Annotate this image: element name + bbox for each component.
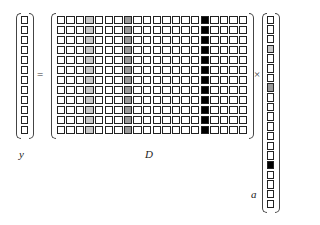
matrix-d-cell: [114, 126, 122, 135]
matrix-d-cell: [201, 46, 209, 55]
matrix-d-cell: [133, 66, 141, 75]
matrix-d-cell: [114, 86, 122, 95]
matrix-d-cell: [76, 66, 84, 75]
matrix-d-cell: [239, 126, 247, 135]
matrix-d-cell: [105, 26, 113, 35]
matrix-d-cell: [143, 106, 151, 115]
matrix-d-cell: [105, 116, 113, 125]
matrix-d-cell: [229, 36, 237, 45]
vector-a-cell: [267, 161, 275, 170]
matrix-d-cell: [76, 46, 84, 55]
matrix-d-cell: [124, 26, 132, 35]
matrix-d-cell: [105, 66, 113, 75]
matrix-d-cell: [143, 36, 151, 45]
matrix-d-cell: [133, 46, 141, 55]
matrix-d-cell: [229, 86, 237, 95]
matrix-d-cell: [85, 36, 93, 45]
matrix-d-cell: [95, 76, 103, 85]
matrix-d-cell: [210, 126, 218, 135]
times-sign: ×: [254, 68, 260, 80]
matrix-d-cell: [85, 26, 93, 35]
matrix-d-cell: [133, 76, 141, 85]
matrix-d-cell: [57, 56, 65, 65]
matrix-d-cell: [153, 116, 161, 125]
matrix-d-cell: [210, 116, 218, 125]
matrix-d-cell: [162, 76, 170, 85]
vector-a-cell: [267, 151, 275, 160]
matrix-d-cells: [56, 15, 248, 135]
matrix-d-cell: [95, 116, 103, 125]
vector-y-cell: [21, 126, 29, 135]
matrix-d-cell: [191, 26, 199, 35]
vector-a-cell: [267, 112, 275, 121]
matrix-d-cell: [124, 126, 132, 135]
matrix-d-cell: [66, 66, 74, 75]
vector-y-cell: [21, 16, 29, 25]
matrix-d-cell: [172, 126, 180, 135]
matrix-d-cell: [153, 66, 161, 75]
matrix-d-cell: [105, 36, 113, 45]
matrix-d-cell: [229, 106, 237, 115]
matrix-d-cell: [124, 36, 132, 45]
matrix-d-cell: [143, 66, 151, 75]
matrix-d-cell: [143, 86, 151, 95]
matrix-d-cell: [57, 16, 65, 25]
matrix-d-cell: [66, 26, 74, 35]
matrix-d-cell: [229, 126, 237, 135]
vector-a-cell: [267, 45, 275, 54]
matrix-d-cell: [114, 16, 122, 25]
matrix-d-cell: [66, 96, 74, 105]
matrix-d-cell: [66, 126, 74, 135]
matrix-d-cell: [181, 56, 189, 65]
matrix-d-cell: [57, 126, 65, 135]
vector-a-cell: [267, 122, 275, 131]
matrix-d-cell: [76, 76, 84, 85]
matrix-d-cell: [95, 56, 103, 65]
matrix-d-cell: [162, 26, 170, 35]
matrix-d-cell: [105, 106, 113, 115]
matrix-d-cell: [229, 46, 237, 55]
matrix-d-cell: [162, 96, 170, 105]
matrix-d-cell: [57, 76, 65, 85]
vector-a-right-bracket: [275, 13, 280, 213]
vector-y-cell: [21, 96, 29, 105]
vector-a-cell: [267, 180, 275, 189]
matrix-d-cell: [95, 96, 103, 105]
vector-a-cell: [267, 103, 275, 112]
vector-a-cell: [267, 200, 275, 209]
matrix-d-cell: [239, 116, 247, 125]
matrix-d-cell: [220, 96, 228, 105]
matrix-d-cell: [229, 116, 237, 125]
matrix-d-cell: [85, 106, 93, 115]
matrix-d-cell: [66, 46, 74, 55]
matrix-d-cell: [162, 126, 170, 135]
matrix-d-cell: [201, 126, 209, 135]
vector-a-cell: [267, 64, 275, 73]
matrix-d-cell: [95, 16, 103, 25]
matrix-d-cell: [172, 26, 180, 35]
matrix-d-cell: [191, 116, 199, 125]
matrix-d-cell: [220, 66, 228, 75]
matrix-d-cell: [85, 86, 93, 95]
matrix-d-cell: [95, 106, 103, 115]
matrix-d-cell: [124, 106, 132, 115]
matrix-d-cell: [76, 26, 84, 35]
matrix-d-cell: [181, 116, 189, 125]
matrix-d-cell: [220, 76, 228, 85]
matrix-d-cell: [239, 86, 247, 95]
matrix-d-cell: [220, 56, 228, 65]
matrix-d-cell: [114, 36, 122, 45]
matrix-d-cell: [162, 16, 170, 25]
matrix-d-cell: [172, 116, 180, 125]
matrix-d-cell: [229, 16, 237, 25]
matrix-d-cell: [85, 46, 93, 55]
matrix-d-cell: [220, 86, 228, 95]
matrix-d-cell: [239, 36, 247, 45]
vector-y-cell: [21, 26, 29, 35]
matrix-d-cell: [124, 56, 132, 65]
matrix-d-cell: [105, 96, 113, 105]
matrix-d-cell: [124, 46, 132, 55]
matrix-d-cell: [124, 116, 132, 125]
matrix-d-cell: [95, 26, 103, 35]
matrix-d-cell: [133, 116, 141, 125]
